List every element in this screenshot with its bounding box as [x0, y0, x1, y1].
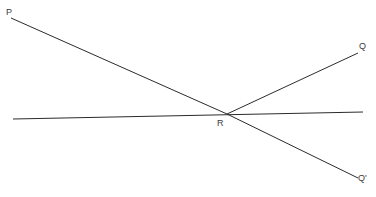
- diagram-svg: [0, 0, 376, 197]
- point-label-q: Q: [359, 42, 366, 51]
- ray-r-to-q: [227, 53, 358, 114]
- point-label-p: P: [6, 8, 12, 17]
- point-label-r: R: [217, 119, 224, 128]
- ray-r-to-q-prime: [227, 114, 358, 178]
- horizontal-line: [13, 112, 363, 119]
- ray-p-to-r: [11, 18, 227, 114]
- geometry-diagram: P Q Q' R: [0, 0, 376, 197]
- point-label-q-prime: Q': [358, 174, 367, 183]
